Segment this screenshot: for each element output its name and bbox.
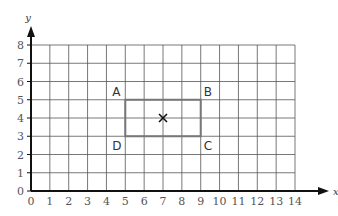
y-tick-label: 0 bbox=[17, 185, 24, 198]
y-axis-arrow-icon bbox=[27, 26, 35, 37]
y-tick-label: 3 bbox=[17, 130, 24, 143]
x-tick-label: 14 bbox=[288, 195, 302, 208]
x-tick-label: 3 bbox=[84, 195, 91, 208]
x-tick-label: 10 bbox=[213, 195, 227, 208]
y-tick-label: 4 bbox=[17, 112, 24, 125]
labels: 01234567891011121314012345678xyABCD bbox=[17, 12, 338, 208]
y-axis-label: y bbox=[24, 12, 31, 23]
y-tick-label: 2 bbox=[17, 149, 24, 162]
y-tick-label: 7 bbox=[17, 57, 24, 70]
y-tick-label: 8 bbox=[17, 39, 24, 52]
x-tick-label: 7 bbox=[160, 195, 167, 208]
y-tick-label: 5 bbox=[17, 94, 24, 107]
x-tick-label: 0 bbox=[28, 195, 35, 208]
x-tick-label: 5 bbox=[122, 195, 129, 208]
coordinate-grid: 01234567891011121314012345678xyABCD bbox=[0, 0, 338, 216]
axes bbox=[27, 26, 329, 195]
x-tick-label: 4 bbox=[103, 195, 110, 208]
corner-label-b: B bbox=[204, 85, 212, 99]
x-tick-label: 6 bbox=[141, 195, 148, 208]
x-axis-arrow-icon bbox=[318, 187, 329, 195]
x-tick-label: 11 bbox=[231, 195, 245, 208]
y-tick-label: 1 bbox=[17, 167, 24, 180]
y-tick-label: 6 bbox=[17, 76, 24, 89]
x-axis-label: x bbox=[333, 186, 338, 197]
x-tick-label: 8 bbox=[178, 195, 185, 208]
x-tick-label: 13 bbox=[269, 195, 283, 208]
x-tick-label: 1 bbox=[46, 195, 53, 208]
x-tick-label: 9 bbox=[197, 195, 204, 208]
corner-label-a: A bbox=[112, 85, 121, 99]
corner-label-d: D bbox=[112, 139, 121, 153]
x-tick-label: 2 bbox=[65, 195, 72, 208]
x-tick-label: 12 bbox=[250, 195, 264, 208]
corner-label-c: C bbox=[204, 139, 212, 153]
